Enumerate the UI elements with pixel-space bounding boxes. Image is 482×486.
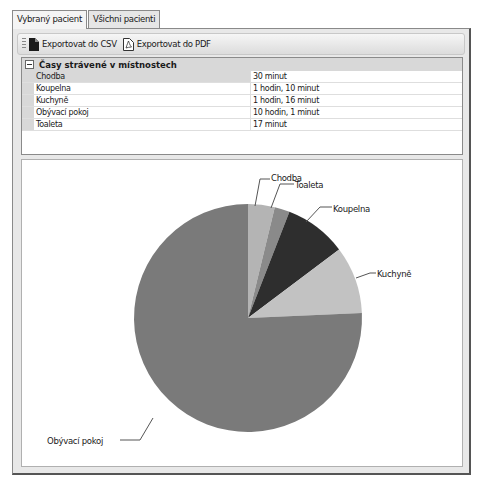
leader-line — [120, 418, 153, 440]
label-koupelna: Koupelna — [333, 204, 370, 214]
tab-strip: Vybraný pacient Všichni pacienti — [12, 10, 160, 28]
tab-panel: Exportovat do CSV Exportovat do PDF Časy… — [12, 28, 471, 475]
property-row[interactable]: Toaleta17 minut — [22, 119, 462, 131]
property-row[interactable]: Chodba30 minut — [22, 71, 462, 83]
property-row[interactable]: Koupelna1 hodin, 10 minut — [22, 83, 462, 95]
property-row[interactable]: Kuchyně1 hodin, 16 minut — [22, 95, 462, 107]
pie-chart: Chodba Toaleta Koupelna Kuchyně Obývací … — [21, 159, 463, 467]
export-csv-label: Exportovat do CSV — [42, 39, 117, 49]
property-row[interactable]: Obývací pokoj10 hodin, 1 minut — [22, 107, 462, 119]
leader-line — [306, 207, 332, 222]
label-kuchyne: Kuchyně — [377, 269, 411, 279]
leader-line — [271, 184, 294, 208]
label-toaleta: Toaleta — [295, 180, 323, 190]
property-grid: Časy strávené v místnostech Chodba30 min… — [21, 57, 463, 155]
category-title: Časy strávené v místnostech — [39, 60, 177, 70]
pdf-document-icon — [123, 38, 134, 51]
property-category: Časy strávené v místnostech — [22, 58, 462, 71]
tab-all-patients[interactable]: Všichni pacienti — [88, 10, 160, 28]
export-pdf-button[interactable]: Exportovat do PDF — [123, 38, 211, 51]
leader-line — [356, 273, 376, 278]
export-csv-button[interactable]: Exportovat do CSV — [29, 38, 117, 51]
label-obyvaci-pokoj: Obývací pokoj — [47, 436, 103, 446]
csv-document-icon — [29, 38, 39, 51]
export-pdf-label: Exportovat do PDF — [137, 39, 211, 49]
toolbar-grip[interactable] — [22, 38, 26, 50]
toolbar: Exportovat do CSV Exportovat do PDF — [17, 33, 465, 55]
leader-line — [255, 179, 270, 206]
tab-selected-patient[interactable]: Vybraný pacient — [12, 10, 87, 29]
collapse-icon[interactable] — [25, 60, 34, 69]
pie-chart-svg — [22, 160, 462, 466]
